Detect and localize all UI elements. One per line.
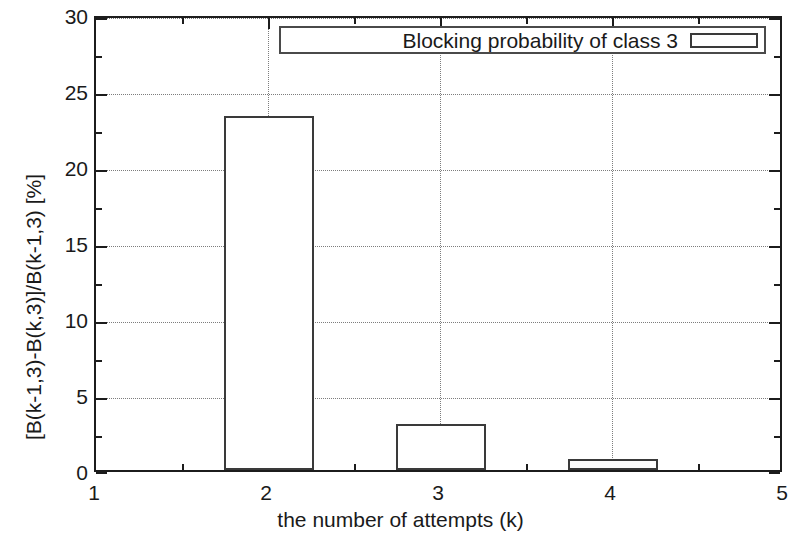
x-tick-label: 1	[64, 482, 124, 503]
y-tick-mark	[769, 18, 780, 20]
y-tick-label: 20	[26, 158, 88, 179]
gridline-horizontal	[96, 398, 780, 399]
gridline-horizontal	[96, 246, 780, 247]
x-minor-tick-mark	[698, 464, 700, 470]
gridline-horizontal	[96, 170, 780, 171]
y-tick-label: 25	[26, 82, 88, 103]
x-tick-label: 5	[752, 482, 801, 503]
y-tick-mark	[769, 170, 780, 172]
y-minor-tick-mark	[774, 56, 780, 58]
y-tick-mark	[96, 18, 107, 20]
bar-chart-figure: [B(k-1,3)-B(k,3)]/B(k-1,3) [%] 30 25 20 …	[0, 0, 801, 547]
gridline-horizontal	[96, 322, 780, 323]
y-minor-tick-mark	[774, 208, 780, 210]
x-tick-mark	[268, 18, 270, 29]
y-tick-mark	[769, 94, 780, 96]
x-minor-tick-mark	[526, 18, 528, 24]
x-minor-tick-mark	[354, 464, 356, 470]
y-tick-mark	[769, 398, 780, 400]
x-tick-label: 3	[408, 482, 468, 503]
gridline-vertical	[612, 18, 613, 470]
x-tick-label: 4	[580, 482, 640, 503]
y-tick-mark	[769, 472, 780, 474]
x-minor-tick-mark	[354, 18, 356, 24]
y-tick-mark	[96, 246, 107, 248]
y-minor-tick-mark	[774, 360, 780, 362]
y-minor-tick-mark	[96, 436, 102, 438]
x-axis-title: the number of attempts (k)	[0, 508, 801, 532]
bar-k3	[396, 424, 486, 470]
gridline-horizontal	[96, 18, 780, 19]
y-minor-tick-mark	[774, 436, 780, 438]
y-tick-mark	[96, 322, 107, 324]
y-minor-tick-mark	[96, 56, 102, 58]
y-tick-label: 5	[26, 386, 88, 407]
x-minor-tick-mark	[526, 464, 528, 470]
plot-area	[94, 16, 782, 472]
y-tick-label: 30	[26, 6, 88, 27]
y-tick-mark	[769, 246, 780, 248]
bar-k4	[568, 459, 658, 470]
x-minor-tick-mark	[698, 18, 700, 24]
y-minor-tick-mark	[96, 284, 102, 286]
y-tick-label: 15	[26, 234, 88, 255]
y-minor-tick-mark	[774, 132, 780, 134]
x-tick-label: 2	[236, 482, 296, 503]
legend-bar-swatch-icon	[690, 33, 758, 48]
x-minor-tick-mark	[182, 464, 184, 470]
y-tick-mark	[769, 322, 780, 324]
y-tick-mark	[96, 398, 107, 400]
y-tick-label: 10	[26, 310, 88, 331]
gridline-vertical	[440, 18, 441, 470]
bar-k2	[224, 116, 314, 470]
y-minor-tick-mark	[96, 360, 102, 362]
y-minor-tick-mark	[96, 208, 102, 210]
y-minor-tick-mark	[774, 284, 780, 286]
legend: Blocking probability of class 3	[279, 26, 766, 54]
y-tick-mark	[96, 170, 107, 172]
y-minor-tick-mark	[96, 132, 102, 134]
x-minor-tick-mark	[182, 18, 184, 24]
y-tick-mark	[96, 472, 107, 474]
gridline-horizontal	[96, 94, 780, 95]
y-tick-label: 0	[26, 462, 88, 483]
legend-entry-label: Blocking probability of class 3	[403, 30, 678, 51]
y-tick-mark	[96, 94, 107, 96]
